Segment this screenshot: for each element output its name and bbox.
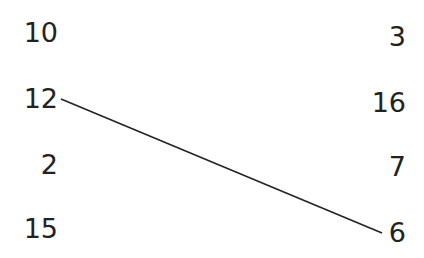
left-item-2[interactable]: 12 bbox=[8, 84, 58, 114]
left-item-1[interactable]: 10 bbox=[8, 18, 58, 48]
right-item-3[interactable]: 7 bbox=[356, 152, 406, 182]
connection-line-12-to-6 bbox=[61, 99, 382, 233]
right-item-4[interactable]: 6 bbox=[356, 218, 406, 248]
right-item-2[interactable]: 16 bbox=[356, 88, 406, 118]
left-item-4[interactable]: 15 bbox=[8, 214, 58, 244]
right-item-1[interactable]: 3 bbox=[356, 22, 406, 52]
left-item-3[interactable]: 2 bbox=[8, 150, 58, 180]
